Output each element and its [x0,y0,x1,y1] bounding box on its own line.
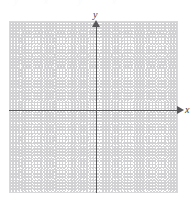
grid-border [9,21,178,193]
artifact-fragment: x [112,0,116,6]
grid-panel [9,21,178,193]
top-clipped-text-artifact: y x y x [0,0,196,13]
artifact-fragment: y [14,0,18,6]
y-axis-label: y [93,10,97,20]
x-axis-line [9,110,180,111]
x-axis-arrow-icon [177,106,184,114]
artifact-fragment: y [78,0,82,6]
artifact-fragment: x [44,0,48,6]
x-axis-label: x [185,105,189,115]
coordinate-grid-figure: y x y x y x [0,0,196,204]
y-axis-line [96,24,97,193]
y-axis-arrow-icon [92,20,100,27]
